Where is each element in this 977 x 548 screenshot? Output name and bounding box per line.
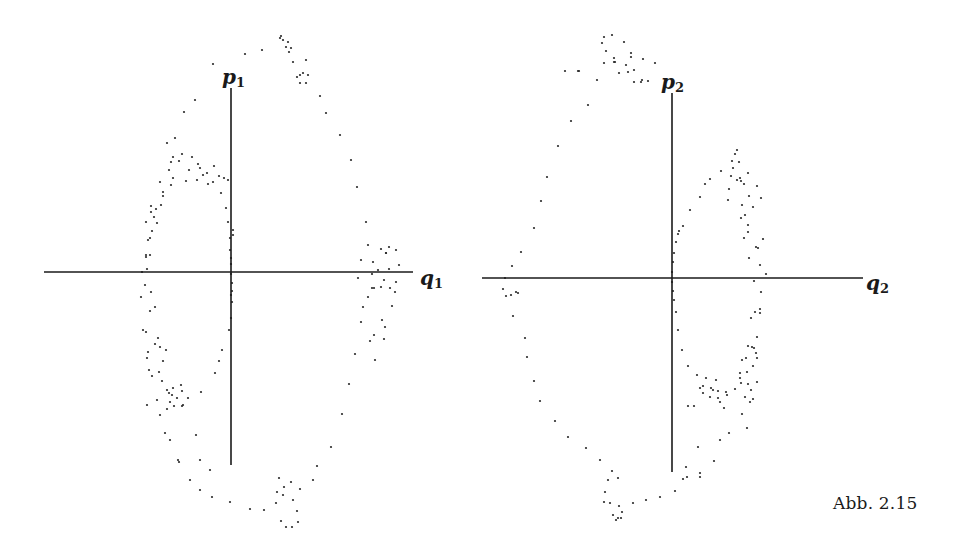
data-point <box>755 352 757 354</box>
data-point <box>199 489 201 491</box>
data-point <box>218 360 220 362</box>
data-point <box>678 230 680 232</box>
data-point <box>302 72 304 74</box>
data-point <box>385 252 387 254</box>
data-point <box>739 372 741 374</box>
data-point <box>195 434 197 436</box>
data-point <box>162 360 164 362</box>
data-point <box>734 388 736 390</box>
data-point <box>546 176 548 178</box>
data-point <box>675 241 677 243</box>
data-point <box>611 34 613 36</box>
data-point <box>145 221 147 223</box>
data-point <box>633 81 635 83</box>
data-point <box>510 294 512 296</box>
data-point <box>607 479 609 481</box>
data-point <box>174 137 176 139</box>
data-point <box>719 439 721 441</box>
data-point <box>372 261 374 263</box>
data-point <box>615 519 617 521</box>
data-point <box>756 381 758 383</box>
data-point <box>659 496 661 498</box>
data-point <box>145 331 147 333</box>
data-point <box>360 321 362 323</box>
data-point <box>381 319 383 321</box>
data-point <box>752 365 754 367</box>
data-point <box>756 185 758 187</box>
data-point <box>398 264 400 266</box>
data-point <box>155 208 157 210</box>
data-point <box>371 287 373 289</box>
data-point <box>280 520 282 522</box>
data-point <box>158 371 160 373</box>
data-point <box>687 405 689 407</box>
data-point <box>755 246 757 248</box>
data-point <box>348 383 350 385</box>
data-point <box>154 343 156 345</box>
data-point <box>285 526 287 528</box>
data-point <box>617 517 619 519</box>
data-point <box>162 195 164 197</box>
data-point <box>181 153 183 155</box>
data-point <box>232 229 234 231</box>
data-point <box>168 169 170 171</box>
data-point <box>188 169 190 171</box>
data-point <box>717 390 719 392</box>
data-point <box>356 186 358 188</box>
data-point <box>178 160 180 162</box>
data-point <box>209 469 211 471</box>
data-point <box>227 221 229 223</box>
data-point <box>212 63 214 65</box>
data-point <box>380 248 382 250</box>
data-point <box>194 99 196 101</box>
data-point <box>261 49 263 51</box>
data-point <box>159 414 161 416</box>
data-point <box>297 521 299 523</box>
figure-canvas: q1 p1 q2 p2 <box>0 0 977 548</box>
data-point <box>557 145 559 147</box>
data-point <box>605 50 607 52</box>
data-point <box>149 237 151 239</box>
data-point <box>339 134 341 136</box>
data-point <box>741 359 743 361</box>
data-point <box>180 384 182 386</box>
data-point <box>166 408 168 410</box>
data-point <box>705 377 707 379</box>
data-point <box>341 413 343 415</box>
data-point <box>148 369 150 371</box>
data-point <box>377 269 379 271</box>
data-point <box>715 379 717 381</box>
data-point <box>154 306 156 308</box>
data-point <box>214 372 216 374</box>
data-point <box>200 391 202 393</box>
data-point <box>617 477 619 479</box>
data-point <box>713 460 715 462</box>
data-point <box>620 517 622 519</box>
data-point <box>223 177 225 179</box>
data-point <box>276 491 278 493</box>
data-point <box>752 206 754 208</box>
data-point <box>146 268 148 270</box>
data-point <box>156 399 158 401</box>
data-point <box>704 183 706 185</box>
data-point <box>279 37 281 39</box>
data-point <box>682 478 684 480</box>
data-point <box>177 459 179 461</box>
data-point <box>181 405 183 407</box>
data-point <box>221 349 223 351</box>
data-point <box>765 273 767 275</box>
data-point <box>213 165 215 167</box>
data-point <box>577 70 579 72</box>
data-point <box>172 387 174 389</box>
data-point <box>515 291 517 293</box>
data-point <box>645 499 647 501</box>
data-point <box>292 499 294 501</box>
data-point <box>350 159 352 161</box>
data-point <box>150 211 152 213</box>
data-point <box>502 288 504 290</box>
data-point <box>754 311 756 313</box>
data-point <box>604 491 606 493</box>
data-point <box>140 296 142 298</box>
data-point <box>689 209 691 211</box>
data-point <box>278 477 280 479</box>
